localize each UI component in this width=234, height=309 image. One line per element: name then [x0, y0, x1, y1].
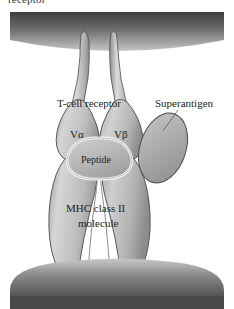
bottom-cell-membrane — [10, 259, 224, 309]
label-peptide: Peptide — [81, 154, 112, 165]
label-v-beta: Vβ — [114, 128, 128, 140]
label-mhc-line2: molecule — [78, 217, 118, 229]
label-v-alpha: Vα — [70, 128, 84, 140]
diagram-canvas: T-cell receptor Superantigen Vα Vβ Pepti… — [0, 0, 234, 309]
label-superantigen: Superantigen — [155, 97, 214, 109]
label-t-cell-receptor: T-cell receptor — [57, 97, 121, 109]
label-mhc-line1: MHC class II — [66, 202, 126, 214]
immunology-diagram: receptor — [0, 0, 234, 309]
